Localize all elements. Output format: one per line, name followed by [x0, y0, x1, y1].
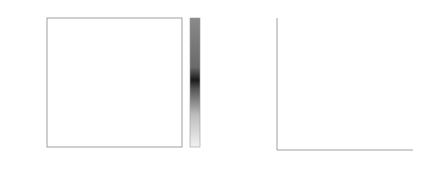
- left-heatmap-panel: [47, 18, 200, 147]
- right-curves-panel: [277, 18, 413, 150]
- left-plot-area: [47, 18, 182, 147]
- colorbar-gradient: [190, 18, 200, 147]
- figure: [0, 0, 428, 182]
- colorbar: [190, 18, 200, 147]
